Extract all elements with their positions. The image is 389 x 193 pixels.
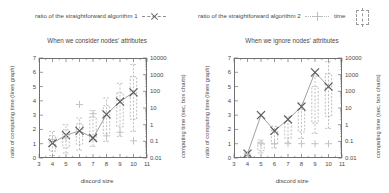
legend-item-1: ratio of the straightforward algorithm 2 xyxy=(198,10,329,22)
y-tick-label-right: 0.01 xyxy=(150,155,176,161)
x-axis-label-1: discord size xyxy=(195,177,389,184)
plot-area-right xyxy=(234,58,342,158)
y-axis-label-left-0: ratio of computing time (lines graph) xyxy=(9,66,15,158)
y-tick-label-right: 1000 xyxy=(150,72,176,78)
y-tick-label-left: 2 xyxy=(211,126,231,132)
y-tick-label-left: 7 xyxy=(16,55,36,61)
x-tick-label: 11 xyxy=(138,161,156,167)
panel-ignore-attributes: When we ignore nodes' attributes ratio o… xyxy=(195,32,389,193)
y-tick-label-left: 3 xyxy=(16,112,36,118)
y-tick-label-right: 10000 xyxy=(150,55,176,61)
y-tick-label-right: 100 xyxy=(150,88,176,94)
panel-title-left: When we consider nodes' attributes xyxy=(0,37,194,44)
plus-marker-dotted-line-icon xyxy=(305,10,329,22)
y-tick-label-left: 0 xyxy=(16,155,36,161)
y-tick-label-right: 10 xyxy=(150,105,176,111)
y-tick-label-right: 0.1 xyxy=(345,138,371,144)
y-tick-label-left: 4 xyxy=(16,98,36,104)
panel-title-right: When we ignore nodes' attributes xyxy=(195,37,389,44)
y-tick-label-right: 10000 xyxy=(345,55,371,61)
y-tick-label-right: 1 xyxy=(150,122,176,128)
x-marker-dashed-line-icon xyxy=(142,10,166,22)
y-axis-label-left-1: ratio of computing time (lines graph) xyxy=(204,66,210,158)
y-tick-label-right: 10 xyxy=(345,105,371,111)
legend-item-2: time xyxy=(334,10,374,22)
legend-item-0: ratio of the straightforward algorithm 1 xyxy=(35,10,166,22)
y-axis-label-right-1: computing time (sec, box charts) xyxy=(375,74,381,158)
y-tick-label-right: 0.01 xyxy=(345,155,371,161)
y-tick-label-left: 2 xyxy=(16,126,36,132)
panel-consider-attributes: When we consider nodes' attributes ratio… xyxy=(0,32,194,193)
y-tick-label-left: 0 xyxy=(211,155,231,161)
y-tick-label-left: 6 xyxy=(16,69,36,75)
y-tick-label-left: 1 xyxy=(16,141,36,147)
y-axis-label-right-0: computing time (sec, box charts) xyxy=(180,74,186,158)
y-tick-label-right: 100 xyxy=(345,88,371,94)
y-tick-label-right: 1 xyxy=(345,122,371,128)
y-tick-label-left: 7 xyxy=(211,55,231,61)
chart-figure: ratio of the straightforward algorithm 1… xyxy=(0,0,389,193)
x-axis-label-0: discord size xyxy=(0,177,194,184)
legend-label-2: time xyxy=(334,13,346,19)
y-tick-label-right: 0.1 xyxy=(150,138,176,144)
y-tick-label-left: 5 xyxy=(16,84,36,90)
y-tick-label-left: 1 xyxy=(211,141,231,147)
x-tick-label: 11 xyxy=(333,161,351,167)
y-tick-label-left: 6 xyxy=(211,69,231,75)
legend-label-1: ratio of the straightforward algorithm 2 xyxy=(198,13,301,19)
legend: ratio of the straightforward algorithm 1… xyxy=(0,0,389,32)
y-tick-label-left: 4 xyxy=(211,98,231,104)
legend-label-0: ratio of the straightforward algorithm 1 xyxy=(35,13,138,19)
plot-area-left xyxy=(39,58,147,158)
y-tick-label-left: 5 xyxy=(211,84,231,90)
box-chart-icon xyxy=(350,10,374,22)
y-tick-label-right: 1000 xyxy=(345,72,371,78)
y-tick-label-left: 3 xyxy=(211,112,231,118)
